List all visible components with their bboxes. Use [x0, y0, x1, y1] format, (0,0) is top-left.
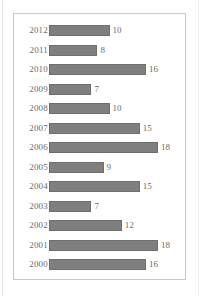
bar-row: 200618 [14, 138, 185, 157]
value-label-2004: 15 [143, 181, 152, 192]
value-label-2007: 15 [143, 123, 152, 134]
bar-2012 [49, 25, 110, 36]
page-edge-left [2, 0, 3, 296]
bar-row: 20118 [14, 41, 185, 60]
category-label-2010: 2010 [20, 64, 48, 75]
category-label-2007: 2007 [20, 123, 48, 134]
bar-row: 200118 [14, 236, 185, 255]
bar-2002 [49, 220, 122, 231]
category-label-2012: 2012 [20, 25, 48, 36]
category-label-2006: 2006 [20, 142, 48, 153]
bar-row: 201016 [14, 60, 185, 79]
value-label-2006: 18 [161, 142, 170, 153]
chart-frame: 2012102011820101620097200810200715200618… [13, 13, 186, 280]
category-label-2003: 2003 [20, 201, 48, 212]
bar-2009 [49, 84, 91, 95]
bar-row: 201210 [14, 21, 185, 40]
value-label-2009: 7 [94, 84, 99, 95]
category-label-2008: 2008 [20, 103, 48, 114]
bar-chart-plot-area: 2012102011820101620097200810200715200618… [14, 14, 185, 279]
category-label-2001: 2001 [20, 240, 48, 251]
bar-row: 20059 [14, 158, 185, 177]
bar-row: 20037 [14, 197, 185, 216]
bar-row: 200810 [14, 99, 185, 118]
bar-2011 [49, 45, 97, 56]
page-edge-right [198, 0, 199, 296]
value-label-2010: 16 [149, 64, 158, 75]
category-label-2011: 2011 [20, 45, 48, 56]
bar-2008 [49, 103, 110, 114]
chart-page: 2012102011820101620097200810200715200618… [0, 0, 201, 296]
bar-2010 [49, 64, 146, 75]
category-label-2005: 2005 [20, 162, 48, 173]
value-label-2011: 8 [100, 45, 105, 56]
value-label-2000: 16 [149, 259, 158, 270]
value-label-2012: 10 [113, 25, 122, 36]
bar-2006 [49, 142, 158, 153]
value-label-2003: 7 [94, 201, 99, 212]
bar-row: 200715 [14, 119, 185, 138]
category-label-2009: 2009 [20, 84, 48, 95]
value-label-2002: 12 [125, 220, 134, 231]
bar-row: 200016 [14, 255, 185, 274]
bar-2007 [49, 123, 140, 134]
bar-2004 [49, 181, 140, 192]
bar-row: 200212 [14, 216, 185, 235]
bar-row: 20097 [14, 80, 185, 99]
category-label-2000: 2000 [20, 259, 48, 270]
bar-row: 200415 [14, 177, 185, 196]
value-label-2001: 18 [161, 240, 170, 251]
category-label-2004: 2004 [20, 181, 48, 192]
bar-2003 [49, 201, 91, 212]
value-label-2005: 9 [107, 162, 112, 173]
bar-2005 [49, 162, 104, 173]
bar-2000 [49, 259, 146, 270]
bar-2001 [49, 240, 158, 251]
category-label-2002: 2002 [20, 220, 48, 231]
value-label-2008: 10 [113, 103, 122, 114]
